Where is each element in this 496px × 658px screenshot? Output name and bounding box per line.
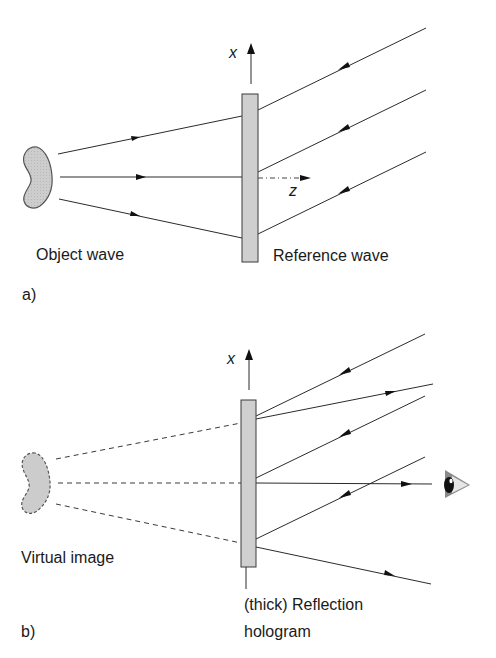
z-axis-label: z: [288, 182, 297, 199]
arrow-head: [384, 570, 395, 576]
x-axis-label: x: [226, 350, 236, 367]
panel-b: x Virtual image (thick) Reflection holog…: [21, 334, 470, 640]
arrow-head: [338, 186, 350, 194]
virtual-ray-bottom: [56, 504, 241, 543]
arrow-head: [339, 490, 351, 498]
hologram-label-line2: hologram: [244, 623, 311, 640]
arrow-head: [131, 136, 140, 141]
object-ray-bottom: [59, 199, 242, 238]
arrow-head: [136, 174, 146, 180]
arrow-head: [385, 391, 396, 396]
object-shape: [24, 147, 53, 208]
virtual-image-shape: [22, 453, 50, 513]
panel-a-tag: a): [22, 286, 36, 303]
virtual-ray-top: [56, 423, 241, 459]
reflected-ray-top: [256, 384, 433, 419]
object-wave-label: Object wave: [36, 246, 124, 263]
hologram-label-line1: (thick) Reflection: [244, 596, 363, 613]
x-axis-arrow: [245, 349, 253, 360]
hologram-diagram: x z Object wave Reference wave a): [0, 0, 496, 658]
z-axis-arrow: [300, 175, 311, 181]
reflected-ray-bottom: [256, 547, 431, 584]
arrow-head: [338, 124, 350, 132]
eye-icon: [444, 470, 470, 498]
arrow-head: [339, 429, 351, 437]
virtual-image-label: Virtual image: [21, 549, 114, 566]
reconstruction-ray-2: [256, 396, 425, 478]
reflection-hologram-plate: [241, 400, 256, 567]
reference-wave-label: Reference wave: [273, 247, 389, 264]
x-axis-arrow: [247, 43, 255, 54]
reconstruction-ray-3: [256, 457, 425, 539]
panel-a: x z Object wave Reference wave a): [22, 28, 426, 303]
arrow-head: [338, 62, 350, 70]
x-axis-label: x: [228, 44, 238, 61]
panel-b-tag: b): [21, 623, 35, 640]
arrow-head: [339, 367, 351, 375]
arrow-head: [401, 481, 412, 487]
reconstruction-ray-1: [256, 334, 425, 416]
holographic-plate: [242, 94, 258, 262]
object-ray-top: [58, 116, 242, 154]
arrow-head: [130, 211, 140, 216]
